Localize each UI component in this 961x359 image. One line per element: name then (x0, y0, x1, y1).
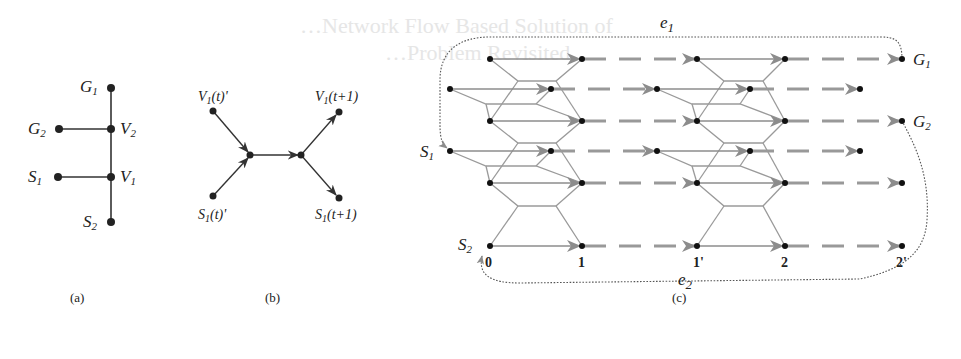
panel-a: G1 V2 G2 V1 S1 S2 (a) (28, 77, 136, 305)
solid-arrows (450, 59, 783, 246)
tick-1: 1 (578, 255, 585, 270)
loop-e2 (481, 121, 927, 283)
tick-2: 2 (781, 255, 788, 270)
node-V1 (107, 173, 115, 181)
node-S1 (54, 173, 62, 181)
label-S1: S1 (420, 142, 434, 162)
label-e2: e2 (678, 270, 693, 292)
label-e1: e1 (660, 13, 674, 35)
label-S2: S2 (83, 212, 98, 232)
dashed-arrows (553, 59, 900, 246)
label-G1: G1 (80, 77, 98, 97)
label-S2: S2 (458, 235, 473, 255)
tick-0: 0 (485, 255, 492, 270)
background-bleed-text: …Network Flow Based Solution of …Problem… (300, 13, 614, 65)
label-s1-t-plus-1: S1(t+1) (315, 207, 357, 224)
svg-text:…Network Flow Based Solution o: …Network Flow Based Solution of (300, 13, 614, 38)
label-G1: G1 (913, 50, 931, 70)
network-flow-figure: …Network Flow Based Solution of …Problem… (0, 0, 961, 359)
tick-2-prime: 2' (896, 255, 907, 270)
tick-1-prime: 1' (693, 255, 704, 270)
node-S2 (107, 218, 115, 226)
time-ticks: 0 1 1' 2 2' (485, 255, 907, 270)
node-s1-t-prime (210, 193, 217, 200)
label-S1: S1 (28, 167, 42, 187)
panel-a-edges (58, 88, 111, 222)
label-G2: G2 (28, 119, 46, 139)
node-V2 (107, 125, 115, 133)
gadget-lines (450, 59, 785, 246)
node-G1 (107, 84, 115, 92)
node-G2 (899, 118, 905, 124)
node-gadget-in (247, 152, 254, 159)
label-V1: V1 (120, 167, 136, 187)
caption-b: (b) (265, 290, 280, 305)
node-S1 (447, 148, 453, 154)
caption-a: (a) (70, 290, 84, 305)
node-v1-t-plus-1 (336, 109, 343, 116)
label-v1-t-prime: V1(t)' (198, 89, 229, 106)
svg-text:…Problem Revisited: …Problem Revisited (385, 40, 570, 65)
panel-a-nodes (54, 84, 115, 226)
label-s1-t-prime: S1(t)' (198, 207, 227, 224)
node-s1-t-plus-1 (336, 195, 343, 202)
label-G2: G2 (913, 112, 931, 132)
node-G2 (55, 125, 63, 133)
panel-b: V1(t)' S1(t)' V1(t+1) S1(t+1) (b) (198, 89, 359, 305)
node-gadget-out (298, 152, 305, 159)
node-G1 (899, 56, 905, 62)
label-V2: V2 (120, 119, 136, 139)
node-v1-t-prime (210, 108, 217, 115)
node-S2 (487, 243, 493, 249)
label-v1-t-plus-1: V1(t+1) (315, 89, 359, 106)
caption-c: (c) (672, 290, 686, 305)
